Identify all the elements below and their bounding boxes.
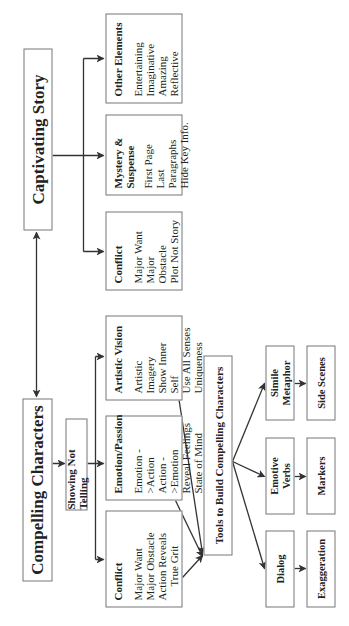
dialog-box: Dialog xyxy=(265,530,294,607)
concept-diagram: Captivating Story Compelling Characters … xyxy=(0,0,349,626)
artistic-vision-title: Artistic Vision xyxy=(111,322,123,393)
label-line: Simile xyxy=(268,369,280,397)
list-item: Major Want xyxy=(131,517,143,600)
dialog-label: Dialog xyxy=(274,554,286,583)
compelling-characters-title: Compelling Characters xyxy=(27,405,47,575)
title-line: Suspense xyxy=(123,121,135,188)
emotion-passion-box: Emotion/Passion Emotion ->Action Action … xyxy=(105,415,182,500)
list-item: Reflective xyxy=(167,20,179,96)
character-conflict-box: Conflict Major Want Major Obstacle Actio… xyxy=(105,510,182,607)
exaggeration-label: Exaggeration xyxy=(315,538,327,598)
captivating-story-title: Captivating Story xyxy=(28,74,48,204)
exaggeration-box: Exaggeration xyxy=(306,530,335,607)
side-scenes-box: Side Scenes xyxy=(306,345,335,420)
tools-box: Tools to Build Compelling Characters xyxy=(203,355,232,555)
story-conflict-title: Conflict xyxy=(111,218,123,283)
character-conflict-title: Conflict xyxy=(111,517,123,600)
emotive-verbs-box: Emotive Verbs xyxy=(265,437,294,514)
captivating-story-box: Captivating Story xyxy=(23,48,52,230)
markers-label: Markers xyxy=(315,456,327,495)
list-item: Reveal Feelings xyxy=(179,422,191,493)
title-line: Mystery & xyxy=(111,121,123,188)
list-item: Imaginative xyxy=(143,20,155,96)
story-conflict-box: Conflict Major Want Major Obstacle Plot … xyxy=(105,211,182,290)
list-item: Uniqueness xyxy=(191,322,203,393)
other-elements-box: Other Elements Entertaining Imaginative … xyxy=(105,13,182,103)
list-item: Amazing xyxy=(155,20,167,96)
list-item: Action ->Emotion xyxy=(155,422,179,493)
list-item: Hide Key Info. xyxy=(177,121,189,188)
list-item: Artistic Imagery xyxy=(131,322,155,393)
showing-not-telling-label: Showing Not Telling xyxy=(64,419,88,509)
list-item: Entertaining xyxy=(131,20,143,96)
emotion-passion-title: Emotion/Passion xyxy=(111,422,123,493)
list-item: Last Paragraphs xyxy=(153,121,177,188)
label-line: Verbs xyxy=(280,463,292,489)
list-item: Major Obstacle xyxy=(143,517,155,600)
other-elements-title: Other Elements xyxy=(111,20,123,96)
label-line: Emotive xyxy=(268,457,280,494)
artistic-vision-box: Artistic Vision Artistic Imagery Show In… xyxy=(105,315,182,400)
markers-box: Markers xyxy=(306,437,335,514)
list-item: Major Want xyxy=(131,218,143,283)
list-item: State of Mind xyxy=(191,422,203,493)
label-line: Metaphor xyxy=(280,360,292,405)
list-item: Use All Senses xyxy=(179,322,191,393)
list-item: Major Obstacle xyxy=(143,218,167,283)
tools-title: Tools to Build Compelling Characters xyxy=(212,366,224,543)
side-scenes-label: Side Scenes xyxy=(315,357,327,409)
simile-metaphor-box: Simile Metaphor xyxy=(265,345,294,420)
list-item: First Page xyxy=(141,121,153,188)
list-item: Show Inner Self xyxy=(155,322,179,393)
list-item: Emotion ->Action xyxy=(131,422,155,493)
list-item: Plot Not Story xyxy=(167,218,179,283)
showing-not-telling-box: Showing Not Telling xyxy=(65,418,87,510)
list-item: Action Reveals xyxy=(155,517,167,600)
list-item: True Grit xyxy=(167,517,179,600)
mystery-suspense-title: Mystery & Suspense xyxy=(111,121,135,188)
compelling-characters-box: Compelling Characters xyxy=(22,398,52,581)
mystery-suspense-box: Mystery & Suspense First Page Last Parag… xyxy=(105,114,182,195)
